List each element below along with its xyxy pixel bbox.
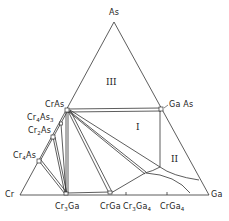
region-label-i: I (136, 123, 140, 132)
formula-sub: 4 (181, 206, 185, 212)
formula-part: Ga (136, 202, 148, 211)
vertex-label-as: As (109, 9, 119, 17)
formula-part: Cr (28, 126, 37, 135)
region-label-iii: III (106, 78, 117, 87)
formula-sub: 3 (50, 117, 54, 123)
formula-part: CrGa (160, 202, 181, 211)
ternary-diagram (0, 0, 229, 221)
formula-part: Cr (27, 113, 36, 122)
formula-part: Cr (13, 151, 22, 160)
formula-part: As (41, 126, 51, 135)
formula-sub: 4 (148, 206, 152, 212)
formula-part: Cr (123, 202, 132, 211)
phase-label-cr4as3: Cr4As3 (27, 114, 54, 124)
formula-part: As (40, 113, 50, 122)
phase-label-cr3ga: Cr3Ga (55, 203, 80, 213)
phase-label-cr2as: Cr2As (28, 127, 51, 137)
formula-part: As (26, 151, 36, 160)
phase-label-cr3ga4: Cr3Ga4 (123, 203, 151, 213)
region-label-ii: II (171, 155, 178, 164)
phase-label-crga4: CrGa4 (160, 203, 184, 213)
phase-label-crga: CrGa (100, 203, 121, 211)
phase-label-cr4as: Cr4As (13, 152, 36, 162)
vertex-label-cr: Cr (5, 191, 14, 199)
phase-label-gaas: Ga As (169, 101, 193, 109)
formula-part: Cr (55, 202, 64, 211)
vertex-label-ga: Ga (211, 191, 223, 199)
phase-label-cras: CrAs (45, 101, 64, 109)
formula-part: Ga (68, 202, 80, 211)
